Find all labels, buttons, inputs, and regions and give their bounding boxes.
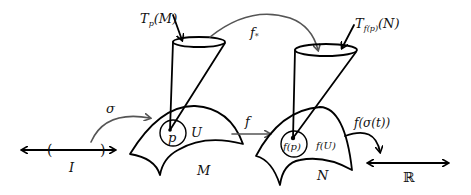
tangent-N-label: Tf(p)(N) <box>355 16 400 33</box>
manifold-N: f(p) f(U) N <box>256 107 352 185</box>
pushforward-arrow: f* <box>210 14 318 50</box>
composite-arrow: f(σ(t)) <box>345 116 391 152</box>
interval-open-bracket: ( <box>47 142 52 158</box>
manifold-map-diagram: ( ) I σ p U M Tp(M) f* f f(p) f(U) <box>0 0 471 195</box>
map-f-label: f <box>244 114 252 129</box>
composite-label: f(σ(t)) <box>353 116 391 130</box>
sigma-arrow: σ <box>91 101 150 142</box>
real-line-domain: ( ) I <box>22 142 115 175</box>
pushforward-label: f* <box>249 25 259 41</box>
reals-label: ℝ <box>403 169 415 185</box>
image-fU-label: f(U) <box>315 140 336 151</box>
manifold-N-label: N <box>316 168 329 183</box>
point-p-label: p <box>168 130 177 145</box>
interval-label: I <box>68 160 75 175</box>
point-fp-label: f(p) <box>282 141 301 152</box>
manifold-M-label: M <box>196 163 211 178</box>
real-line-codomain: ℝ <box>368 163 448 185</box>
tangent-M-label: Tp(M) <box>140 11 177 28</box>
tangent-space-M: Tp(M) <box>140 11 225 132</box>
neighborhood-U-label: U <box>191 125 203 140</box>
sigma-label: σ <box>106 101 116 116</box>
interval-close-bracket: ) <box>100 142 105 158</box>
